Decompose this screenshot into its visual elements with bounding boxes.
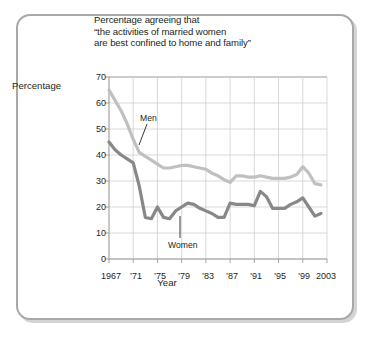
y-tick-50: 50	[80, 124, 106, 134]
series-label-women: Women	[168, 240, 197, 250]
gridlines	[105, 77, 327, 263]
y-tick-0: 0	[80, 254, 106, 264]
y-tick-10: 10	[80, 228, 106, 238]
series-line-men	[109, 90, 321, 185]
chart-container: Percentage agreeing that “the activities…	[0, 0, 334, 302]
y-tick-60: 60	[80, 98, 106, 108]
x-tick-1987: ’87	[221, 271, 243, 281]
y-tick-70: 70	[80, 72, 106, 82]
x-tick-2003: 2003	[312, 271, 340, 281]
y-axis-label: Percentage	[12, 80, 61, 91]
series-label-men: Men	[140, 113, 157, 123]
series-paths	[109, 90, 321, 219]
x-tick-1995: ’95	[269, 271, 291, 281]
x-tick-1983: ’83	[197, 271, 219, 281]
y-tick-40: 40	[80, 150, 106, 160]
chart-title: Percentage agreeing that “the activities…	[94, 14, 334, 49]
x-tick-1967: 1967	[97, 271, 125, 281]
x-tick-1971: ’71	[125, 271, 147, 281]
x-tick-1979: ’79	[173, 271, 195, 281]
x-tick-1975: ’75	[149, 271, 171, 281]
x-tick-1991: ’91	[245, 271, 267, 281]
y-tick-20: 20	[80, 202, 106, 212]
y-tick-30: 30	[80, 176, 106, 186]
